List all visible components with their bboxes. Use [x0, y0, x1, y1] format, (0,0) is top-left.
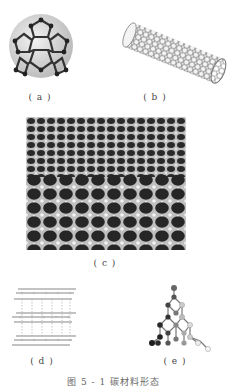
panel-d-label: ( d ) — [22, 356, 62, 366]
nanotube-image — [120, 18, 228, 88]
diamond-image — [140, 283, 220, 353]
fullerene-image — [6, 10, 76, 82]
panel-c-label: ( c ) — [85, 258, 125, 268]
graphite-image — [10, 285, 80, 350]
graphene-image — [26, 117, 186, 250]
figure-caption: 图 5 - 1 碳材料形态 — [0, 375, 227, 388]
panel-e-label: ( e ) — [155, 356, 195, 366]
panel-a-label: ( a ) — [20, 92, 60, 102]
panel-b-label: ( b ) — [135, 92, 175, 102]
